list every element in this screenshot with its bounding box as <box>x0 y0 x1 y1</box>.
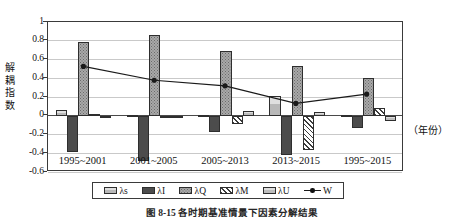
bar-λQ-1995~2001 <box>78 42 89 116</box>
legend-label-λs: λs <box>119 186 127 196</box>
bar-λs-2013~2015 <box>269 96 280 116</box>
bar-λM-1995~2001 <box>89 114 100 116</box>
legend-label-W: W <box>323 186 332 196</box>
legend-line-marker-W <box>304 187 321 195</box>
chart-legend: λsλIλQλMλUW <box>92 182 344 199</box>
bar-λs-1995~2001 <box>56 110 67 116</box>
gridline <box>48 40 402 41</box>
legend-swatch-λU <box>263 187 276 194</box>
gridline <box>48 134 402 135</box>
bar-λU-2001~2005 <box>171 116 182 118</box>
legend-swatch-λI <box>142 187 155 194</box>
bar-λQ-2013~2015 <box>292 66 303 116</box>
y-axis-tick-label: -0.4 <box>29 147 44 157</box>
bar-λU-2005~2013 <box>243 111 254 116</box>
legend-swatch-λM <box>220 187 233 194</box>
bar-λs-2001~2005 <box>127 115 138 117</box>
legend-label-λI: λI <box>157 186 165 196</box>
bar-λM-1995~2015 <box>374 108 385 116</box>
legend-swatch-λs <box>104 187 117 194</box>
bar-λI-1995~2015 <box>352 116 363 128</box>
bar-λQ-2001~2005 <box>149 35 160 116</box>
x-axis-label-1995~2015: 1995~2015 <box>332 155 403 166</box>
figure-container: 解 耦 指 数 10.80.60.40.20-0.2-0.4-0.6 1995~… <box>0 0 464 217</box>
bar-λU-1995~2015 <box>385 116 396 122</box>
y-axis-title-char-2: 指 <box>3 87 16 100</box>
bar-λM-2013~2015 <box>303 116 314 151</box>
legend-label-λM: λM <box>236 186 249 196</box>
x-axis-label-2013~2015: 2013~2015 <box>261 155 332 166</box>
gridline <box>48 153 402 154</box>
legend-label-λQ: λQ <box>195 186 206 196</box>
x-axis-label-1995~2001: 1995~2001 <box>47 155 118 166</box>
legend-item-λM[interactable]: λM <box>220 186 249 196</box>
y-axis-title-char-3: 数 <box>3 100 16 113</box>
bar-λs-1995~2015 <box>341 115 352 117</box>
x-axis-unit-label: （年份） <box>408 122 448 137</box>
legend-label-λU: λU <box>278 186 289 196</box>
bar-λI-2001~2005 <box>138 116 149 161</box>
y-axis-title-char-1: 耦 <box>3 75 16 88</box>
bar-λM-2005~2013 <box>232 116 243 124</box>
bar-λQ-2005~2013 <box>220 51 231 116</box>
y-axis-tick-label: -0.2 <box>29 128 44 138</box>
legend-item-W[interactable]: W <box>304 186 332 196</box>
legend-item-λs[interactable]: λs <box>104 186 128 196</box>
bar-λI-2013~2015 <box>281 116 292 155</box>
bar-λM-2001~2005 <box>160 116 171 118</box>
bar-λI-1995~2001 <box>67 116 78 153</box>
plot-area <box>47 21 403 171</box>
legend-item-λU[interactable]: λU <box>263 186 290 196</box>
bar-λU-2013~2015 <box>314 112 325 116</box>
bar-λQ-1995~2015 <box>363 78 374 116</box>
bar-λU-1995~2001 <box>100 116 111 118</box>
legend-item-λI[interactable]: λI <box>142 186 165 196</box>
legend-swatch-λQ <box>179 187 192 194</box>
y-axis-title: 解 耦 指 数 <box>3 62 16 112</box>
x-axis-label-2005~2013: 2005~2013 <box>189 155 260 166</box>
y-axis-tick-label: -0.6 <box>29 166 44 176</box>
legend-item-λQ[interactable]: λQ <box>179 186 206 196</box>
bar-λs-2005~2013 <box>198 115 209 117</box>
bar-λI-2005~2013 <box>209 116 220 132</box>
y-axis-title-char-0: 解 <box>3 62 16 75</box>
figure-caption: 图 8-15 各时期基准情景下因素分解结果 <box>0 205 464 217</box>
x-axis-label-2001~2005: 2001~2005 <box>118 155 189 166</box>
gridline <box>48 172 402 173</box>
